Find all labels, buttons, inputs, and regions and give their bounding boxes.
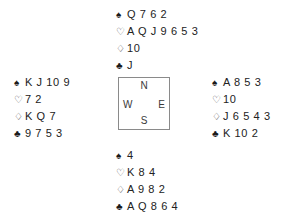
- hand-west: ♠K J 10 9 ♡7 2 ♢K Q 7 ♣9 7 5 3: [14, 74, 70, 142]
- club-icon: ♣: [116, 198, 127, 215]
- hand-east-spades-row: ♠A 8 5 3: [212, 74, 271, 91]
- spade-icon: ♠: [116, 147, 127, 164]
- hand-west-diamonds: K Q 7: [25, 110, 56, 122]
- hand-north-diamonds: 10: [127, 42, 140, 54]
- hand-south-diamonds-row: ♢A 9 8 2: [116, 181, 178, 198]
- heart-icon: ♡: [212, 91, 223, 108]
- spade-icon: ♠: [116, 6, 127, 23]
- bridge-deal-diagram: ♠Q 7 6 2 ♡A Q J 9 6 5 3 ♢10 ♣J ♠K J 10 9…: [0, 0, 284, 216]
- hand-west-hearts: 7 2: [25, 93, 42, 105]
- hand-east-diamonds: J 6 5 4 3: [223, 110, 271, 122]
- hand-north-clubs-row: ♣J: [116, 57, 198, 74]
- compass-box: N W E S: [118, 77, 170, 130]
- compass-east-label: E: [158, 98, 165, 109]
- diamond-icon: ♢: [116, 181, 127, 198]
- hand-east: ♠A 8 5 3 ♡10 ♢J 6 5 4 3 ♣K 10 2: [212, 74, 271, 142]
- club-icon: ♣: [14, 125, 25, 142]
- diamond-icon: ♢: [212, 108, 223, 125]
- spade-icon: ♠: [212, 74, 223, 91]
- hand-north-hearts: A Q J 9 6 5 3: [127, 25, 198, 37]
- hand-east-hearts: 10: [223, 93, 236, 105]
- spade-icon: ♠: [14, 74, 25, 91]
- hand-south: ♠4 ♡K 8 4 ♢A 9 8 2 ♣A Q 8 6 4: [116, 147, 178, 215]
- hand-south-hearts: K 8 4: [127, 166, 156, 178]
- hand-north: ♠Q 7 6 2 ♡A Q J 9 6 5 3 ♢10 ♣J: [116, 6, 198, 74]
- heart-icon: ♡: [14, 91, 25, 108]
- heart-icon: ♡: [116, 23, 127, 40]
- hand-north-hearts-row: ♡A Q J 9 6 5 3: [116, 23, 198, 40]
- hand-west-clubs-row: ♣9 7 5 3: [14, 125, 70, 142]
- hand-south-clubs: A Q 8 6 4: [127, 200, 178, 212]
- compass-south-label: S: [119, 115, 169, 126]
- diamond-icon: ♢: [116, 40, 127, 57]
- heart-icon: ♡: [116, 164, 127, 181]
- compass-north-label: N: [119, 80, 169, 91]
- hand-east-clubs: K 10 2: [223, 127, 258, 139]
- diamond-icon: ♢: [14, 108, 25, 125]
- hand-east-hearts-row: ♡10: [212, 91, 271, 108]
- hand-north-clubs: J: [127, 59, 133, 71]
- club-icon: ♣: [212, 125, 223, 142]
- hand-west-hearts-row: ♡7 2: [14, 91, 70, 108]
- hand-north-spades-row: ♠Q 7 6 2: [116, 6, 198, 23]
- hand-south-spades: 4: [127, 149, 134, 161]
- hand-west-diamonds-row: ♢K Q 7: [14, 108, 70, 125]
- hand-east-spades: A 8 5 3: [223, 76, 261, 88]
- compass-west-label: W: [123, 98, 132, 109]
- hand-west-clubs: 9 7 5 3: [25, 127, 63, 139]
- hand-south-diamonds: A 9 8 2: [127, 183, 165, 195]
- hand-south-spades-row: ♠4: [116, 147, 178, 164]
- hand-north-diamonds-row: ♢10: [116, 40, 198, 57]
- hand-north-spades: Q 7 6 2: [127, 8, 167, 20]
- club-icon: ♣: [116, 57, 127, 74]
- hand-west-spades-row: ♠K J 10 9: [14, 74, 70, 91]
- hand-east-clubs-row: ♣K 10 2: [212, 125, 271, 142]
- hand-south-clubs-row: ♣A Q 8 6 4: [116, 198, 178, 215]
- hand-south-hearts-row: ♡K 8 4: [116, 164, 178, 181]
- hand-west-spades: K J 10 9: [25, 76, 70, 88]
- hand-east-diamonds-row: ♢J 6 5 4 3: [212, 108, 271, 125]
